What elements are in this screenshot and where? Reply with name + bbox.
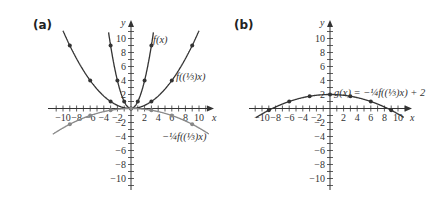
x-tick-label: 2 [142,112,147,123]
data-point [190,122,194,126]
y-tick-label: −8 [115,159,126,170]
y-axis-arrow-icon [327,20,333,27]
series-label: f(x) [153,34,168,46]
x-tick-label: 10 [393,112,403,123]
y-tick-label: 10 [315,33,325,44]
x-tick-label: 10 [194,112,204,123]
y-tick-label: −10 [309,173,325,184]
x-tick-label: 8 [382,112,387,123]
data-point [68,122,72,126]
data-point [328,93,332,97]
y-tick-label: 8 [320,47,325,58]
data-point [136,100,140,104]
x-tick-label: 4 [156,112,161,123]
data-point [143,79,147,83]
data-point [109,108,113,112]
y-tick-label: −6 [314,145,325,156]
y-tick-label: 4 [320,75,325,86]
series-label: −¼f((⅓)x) [162,131,207,143]
y-tick-label: 6 [320,61,325,72]
x-tick-label: 4 [355,112,360,123]
y-tick-label: −4 [314,131,325,142]
data-point [149,100,153,104]
y-axis-label: y [319,17,325,28]
plot-a: −10−8−6−4−2246810−10−8−6−4−2246810xyf(x)… [48,17,217,190]
x-tick-label: 6 [368,112,373,123]
data-point [129,107,133,111]
y-tick-label: 10 [116,33,126,44]
figure-canvas: −10−8−6−4−2246810−10−8−6−4−2246810xyf(x)… [0,0,442,204]
data-point [68,44,72,48]
data-point [109,100,113,104]
x-tick-label: −4 [297,112,308,123]
y-tick-label: −6 [115,145,126,156]
y-tick-label: 4 [121,75,126,86]
series-label: f((⅓)x) [176,71,206,83]
data-point [88,114,92,118]
y-tick-label: −4 [115,131,126,142]
x-axis-label: x [409,112,415,123]
y-axis-label: y [120,17,126,28]
data-point [170,114,174,118]
x-axis-label: x [211,112,217,123]
series-label: g(x) = −¼f((⅓)x) + 2 [334,87,426,99]
data-point [115,79,119,83]
data-point [122,100,126,104]
x-tick-label: −6 [284,112,295,123]
data-point [308,94,312,98]
plot-b: −10−8−6−4−2246810−10−8−6−4−2246810xyg(x)… [249,17,426,190]
data-point [170,79,174,83]
y-tick-label: −2 [314,117,325,128]
x-tick-label: −10 [55,112,71,123]
data-point [287,100,291,104]
data-point [190,44,194,48]
y-tick-label: 8 [121,47,126,58]
x-tick-label: 2 [341,112,346,123]
data-point [88,79,92,83]
data-point [369,100,373,104]
y-tick-label: 6 [121,61,126,72]
x-tick-label: −8 [270,112,281,123]
data-point [109,44,113,48]
y-tick-label: −8 [314,159,325,170]
y-axis-arrow-icon [128,20,134,27]
data-point [389,108,393,112]
data-point [267,108,271,112]
y-tick-label: −10 [110,173,126,184]
data-point [149,108,153,112]
y-tick-label: −2 [115,117,126,128]
